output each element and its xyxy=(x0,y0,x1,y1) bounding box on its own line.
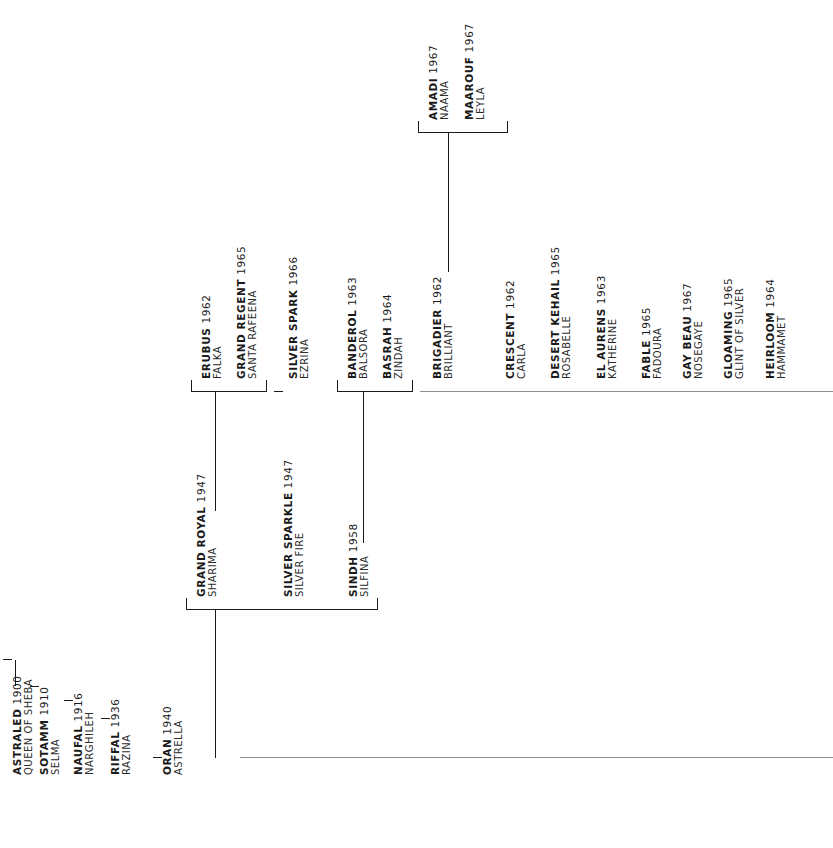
pedigree-entry-gloaming: GLOAMING 1965 GLINT OF SILVER xyxy=(723,278,745,379)
connector-oran-spine xyxy=(215,609,216,758)
entry-name-year-naufal: NAUFAL 1916 xyxy=(73,692,84,775)
entry-name-year-banderol: BANDEROL 1963 xyxy=(347,277,358,379)
entry-dam-grand-royal: SHARIMA xyxy=(208,473,218,597)
pedigree-entry-amadi: AMADI 1967 NAAMA xyxy=(428,45,450,120)
bracket-right-gen1 xyxy=(377,598,378,610)
bracket-left-gen1 xyxy=(186,598,187,610)
entry-name-year-grand-royal: GRAND ROYAL 1947 xyxy=(196,473,207,597)
entry-name-year-el-aurens: EL AURENS 1963 xyxy=(596,275,607,379)
entry-name-year-basrah: BASRAH 1964 xyxy=(382,294,393,379)
tick-sotamm xyxy=(30,686,39,687)
tick-silver-sparkle xyxy=(274,391,283,392)
pedigree-entry-riffal: RIFFAL 1936 RAZINA xyxy=(110,698,132,775)
entry-name-year-astraled: ASTRALED 1900 xyxy=(12,675,23,775)
bracket-bar-gen3 xyxy=(418,132,508,133)
pedigree-entry-brigadier: BRIGADIER 1962 BRILLIANT xyxy=(432,276,454,379)
entry-dam-gay-beau: NOSEGAYE xyxy=(694,283,704,379)
tick-naufal xyxy=(64,700,73,701)
pedigree-entry-basrah: BASRAH 1964 ZINDAH xyxy=(382,294,404,379)
entry-dam-fable: FADOURA xyxy=(653,307,663,379)
entry-name-year-erubus: ERUBUS 1962 xyxy=(201,294,212,379)
pedigree-entry-el-aurens: EL AURENS 1963 KATHERINE xyxy=(596,275,618,379)
entry-dam-brigadier: BRILLIANT xyxy=(444,276,454,379)
entry-dam-sindh: SILFINA xyxy=(360,523,370,597)
pedigree-entry-erubus: ERUBUS 1962 FALKA xyxy=(201,294,223,379)
entry-dam-heirloom: HAMMAMET xyxy=(777,279,787,379)
pedigree-entry-fable: FABLE 1965 FADOURA xyxy=(641,307,663,379)
connector-astraled-sotamm xyxy=(15,660,16,686)
entry-name-year-silver-sparkle: SILVER SPARKLE 1947 xyxy=(283,459,294,597)
connector-sindh-spine xyxy=(363,391,364,543)
entry-name-year-desert-kehail: DESERT KEHAIL 1965 xyxy=(550,246,561,379)
entry-dam-sotamm: SELMA xyxy=(51,686,61,775)
entry-name-year-sotamm: SOTAMM 1910 xyxy=(39,686,50,775)
entry-name-year-gloaming: GLOAMING 1965 xyxy=(723,278,734,379)
entry-dam-naufal: NARGHILEH xyxy=(85,692,95,775)
entry-name-year-brigadier: BRIGADIER 1962 xyxy=(432,276,443,379)
entry-name-year-heirloom: HEIRLOOM 1964 xyxy=(765,279,776,379)
separator-rule-upper xyxy=(420,391,833,392)
entry-dam-astraled: QUEEN OF SHEBA xyxy=(24,675,34,775)
entry-dam-crescent: CARLA xyxy=(517,280,527,379)
entry-dam-banderol: BALSORA xyxy=(359,277,369,379)
entry-name-year-gay-beau: GAY BEAU 1967 xyxy=(682,283,693,379)
bracket-left-gen3 xyxy=(418,121,419,133)
entry-name-year-riffal: RIFFAL 1936 xyxy=(110,698,121,775)
separator-rule-lower xyxy=(240,757,833,758)
bracket-bar-gen1 xyxy=(186,609,378,610)
pedigree-entry-silver-spark: SILVER SPARK 1966 EZRINA xyxy=(288,256,310,379)
entry-name-year-silver-spark: SILVER SPARK 1966 xyxy=(288,256,299,379)
bracket-bar-gen2a xyxy=(191,391,267,392)
pedigree-entry-grand-regent: GRAND REGENT 1965 SANTA RAFEENA xyxy=(236,246,258,379)
entry-dam-el-aurens: KATHERINE xyxy=(608,275,618,379)
entry-dam-silver-spark: EZRINA xyxy=(300,256,310,379)
pedigree-entry-sindh: SINDH 1958 SILFINA xyxy=(348,523,370,597)
pedigree-chart: ASTRALED 1900 QUEEN OF SHEBA SOTAMM 1910… xyxy=(0,0,833,848)
pedigree-entry-gay-beau: GAY BEAU 1967 NOSEGAYE xyxy=(682,283,704,379)
entry-name-year-crescent: CRESCENT 1962 xyxy=(505,280,516,379)
entry-dam-riffal: RAZINA xyxy=(122,698,132,775)
entry-name-year-maarouf: MAAROUF 1967 xyxy=(464,23,475,120)
connector-brigadier-spine xyxy=(448,132,449,272)
entry-name-year-fable: FABLE 1965 xyxy=(641,307,652,379)
entry-name-year-grand-regent: GRAND REGENT 1965 xyxy=(236,246,247,379)
entry-name-year-sindh: SINDH 1958 xyxy=(348,523,359,597)
entry-dam-amadi: NAAMA xyxy=(440,45,450,120)
tick-riffal xyxy=(101,718,110,719)
bracket-bar-gen2b xyxy=(337,391,413,392)
pedigree-entry-desert-kehail: DESERT KEHAIL 1965 ROSABELLE xyxy=(550,246,572,379)
tick-astraled xyxy=(3,659,12,660)
bracket-right-gen2b xyxy=(412,380,413,392)
entry-dam-grand-regent: SANTA RAFEENA xyxy=(248,246,258,379)
entry-dam-basrah: ZINDAH xyxy=(394,294,404,379)
tick-oran xyxy=(153,757,162,758)
entry-dam-oran: ASTRELLA xyxy=(174,706,184,775)
pedigree-entry-silver-sparkle: SILVER SPARKLE 1947 SILVER FIRE xyxy=(283,459,305,597)
entry-dam-maarouf: LEYLA xyxy=(476,23,486,120)
pedigree-entry-sotamm: SOTAMM 1910 SELMA xyxy=(39,686,61,775)
pedigree-entry-crescent: CRESCENT 1962 CARLA xyxy=(505,280,527,379)
entry-dam-desert-kehail: ROSABELLE xyxy=(562,246,572,379)
bracket-left-gen2b xyxy=(337,380,338,392)
entry-dam-erubus: FALKA xyxy=(213,294,223,379)
pedigree-entry-maarouf: MAAROUF 1967 LEYLA xyxy=(464,23,486,120)
bracket-left-gen2a xyxy=(191,380,192,392)
pedigree-entry-naufal: NAUFAL 1916 NARGHILEH xyxy=(73,692,95,775)
connector-grand-royal-spine xyxy=(215,391,216,511)
entry-name-year-oran: ORAN 1940 xyxy=(162,706,173,775)
entry-name-year-amadi: AMADI 1967 xyxy=(428,45,439,120)
pedigree-entry-heirloom: HEIRLOOM 1964 HAMMAMET xyxy=(765,279,787,379)
entry-dam-silver-sparkle: SILVER FIRE xyxy=(295,459,305,597)
bracket-right-gen2a xyxy=(266,380,267,392)
entry-dam-gloaming: GLINT OF SILVER xyxy=(735,278,745,379)
pedigree-entry-astraled: ASTRALED 1900 QUEEN OF SHEBA xyxy=(12,675,34,775)
pedigree-entry-oran: ORAN 1940 ASTRELLA xyxy=(162,706,184,775)
bracket-right-gen3 xyxy=(507,121,508,133)
pedigree-entry-banderol: BANDEROL 1963 BALSORA xyxy=(347,277,369,379)
